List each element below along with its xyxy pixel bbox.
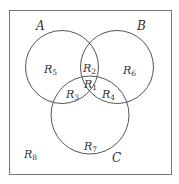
region-r4-label: R4 <box>101 88 115 102</box>
region-r1-label: R1 <box>83 78 97 92</box>
region-r5-label: R5 <box>43 63 57 77</box>
region-r6-label: R6 <box>122 64 136 78</box>
region-r2-label: R2 <box>82 62 96 76</box>
region-r8-label: R8 <box>23 148 37 162</box>
venn-diagram: A B C R5 R2 R6 R1 R3 R4 R7 R8 <box>0 0 179 184</box>
set-b-label: B <box>136 19 146 33</box>
region-r3-label: R3 <box>65 88 79 102</box>
region-r7-label: R7 <box>83 140 97 154</box>
set-a-label: A <box>35 19 45 33</box>
set-c-label: C <box>112 151 121 165</box>
